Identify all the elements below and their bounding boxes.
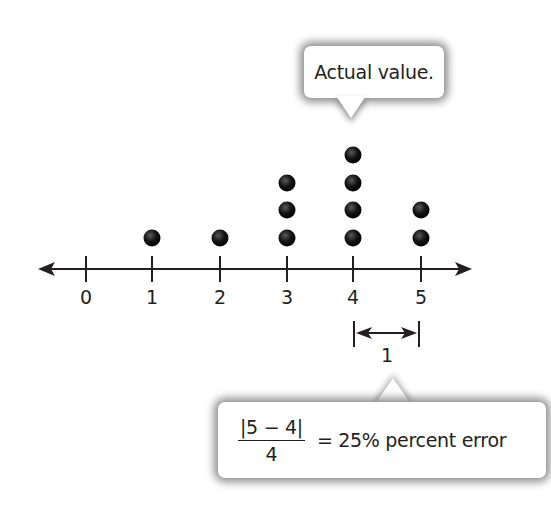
fraction-denominator: 4	[266, 441, 278, 465]
dot	[345, 202, 362, 219]
dot	[279, 230, 296, 247]
dot	[345, 175, 362, 192]
actual-value-callout: Actual value.	[304, 46, 444, 98]
tick-label-2: 2	[214, 286, 226, 308]
dot	[279, 175, 296, 192]
callout-pointer	[375, 378, 411, 404]
percent-error-text: = 25% percent error	[317, 429, 506, 451]
fraction-numerator: |5 − 4|	[238, 416, 305, 441]
tick-label-3: 3	[281, 286, 293, 308]
dot	[413, 230, 430, 247]
data-dots	[144, 147, 430, 247]
dot	[345, 230, 362, 247]
dot	[144, 230, 161, 247]
fraction: |5 − 4| 4	[238, 416, 305, 465]
number-line	[38, 256, 472, 282]
tick-label-0: 0	[80, 286, 92, 308]
callout-text: Actual value.	[314, 61, 434, 83]
tick-label-5: 5	[415, 286, 427, 308]
tick-label-4: 4	[347, 286, 359, 308]
dot	[212, 230, 229, 247]
dot	[279, 202, 296, 219]
distance-label: 1	[381, 344, 393, 366]
tick-label-1: 1	[146, 286, 158, 308]
dot	[345, 147, 362, 164]
callout-pointer	[336, 96, 366, 118]
percent-error-callout: |5 − 4| 4 = 25% percent error	[218, 402, 546, 478]
dot	[413, 202, 430, 219]
